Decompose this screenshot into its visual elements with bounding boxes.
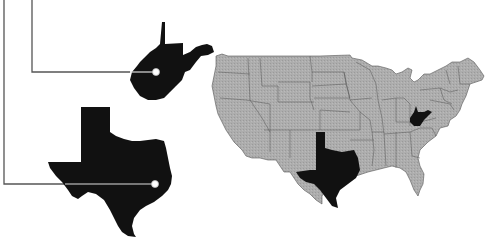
tx-location-marker	[152, 181, 159, 188]
wv-location-marker	[153, 69, 160, 76]
contiguous-us-map	[212, 54, 484, 208]
west-virginia-callout	[130, 22, 214, 100]
us-locator-map	[0, 0, 503, 238]
tx-leader-line	[4, 0, 65, 184]
texas-callout	[48, 107, 172, 237]
wv-leader-line	[32, 0, 130, 72]
